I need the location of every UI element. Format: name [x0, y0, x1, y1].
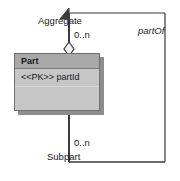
- role-label-subpart: Subpart: [47, 152, 80, 162]
- class-attribute-label: <<PK>> partId: [21, 73, 80, 82]
- role-label-aggregate: Aggregate: [38, 16, 82, 26]
- association-name-label: partOf: [138, 26, 164, 36]
- multiplicity-label-top: 0..n: [74, 30, 90, 40]
- class-header: Part: [15, 54, 99, 69]
- class-attributes-compartment: <<PK>> partId: [15, 69, 99, 87]
- multiplicity-label-bottom: 0..n: [74, 138, 90, 148]
- class-name-label: Part: [21, 57, 39, 66]
- class-operations-compartment: [15, 87, 99, 110]
- uml-diagram-canvas: Part <<PK>> partId Aggregate 0..n 0..n S…: [0, 0, 180, 181]
- class-box-part[interactable]: Part <<PK>> partId: [14, 53, 100, 111]
